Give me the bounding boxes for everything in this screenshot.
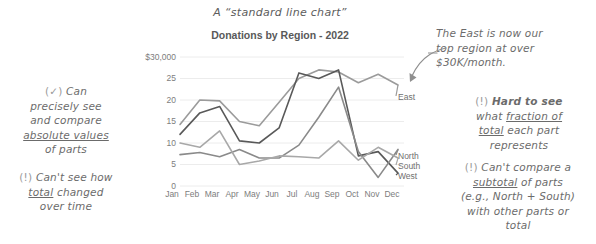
annotation-text: of parts bbox=[517, 176, 563, 188]
annotation-text-underlined: total bbox=[479, 124, 504, 136]
slide-canvas: A “standard line chart” Donations by Reg… bbox=[0, 0, 596, 244]
annotation-text-underlined: total bbox=[28, 186, 53, 198]
y-tick-label: 20 bbox=[130, 95, 176, 105]
annotation-right-con-1: (!) Hard to see what fraction of total e… bbox=[444, 94, 594, 152]
annotation-text: over time bbox=[40, 200, 92, 212]
annotation-east-callout: The East is now our top region at over $… bbox=[436, 26, 594, 70]
annotation-text-underlined: absolute values bbox=[23, 129, 109, 141]
annotation-right-con-2: (!) Can't compare a subtotal of parts (e… bbox=[440, 160, 596, 233]
annotation-text: changed bbox=[53, 186, 103, 198]
annotation-text-underlined: fraction of bbox=[506, 110, 562, 122]
y-tick-label: 25 bbox=[130, 73, 176, 83]
y-tick-label: 10 bbox=[130, 138, 176, 148]
annotation-text-underlined: subtotal bbox=[473, 176, 517, 188]
annotation-text: Can't see how bbox=[36, 171, 113, 183]
series-label-north: North bbox=[398, 151, 419, 161]
line-chart: $30,000 25 20 15 10 5 0 Jan Feb Mar Apr … bbox=[130, 46, 405, 211]
y-tick-label: $30,000 bbox=[130, 52, 176, 62]
annotation-text: top region at over bbox=[436, 42, 534, 54]
annotation-text: total bbox=[505, 219, 530, 231]
annotation-text: (e.g., North + South) bbox=[461, 190, 575, 202]
annotation-text: each part bbox=[504, 124, 560, 136]
chart-title: Donations by Region - 2022 bbox=[170, 29, 390, 41]
annotation-left-con: (!) Can't see how total changed over tim… bbox=[4, 170, 128, 214]
annotation-text: The East is now our bbox=[436, 27, 543, 39]
series-label-east: East bbox=[398, 92, 415, 102]
y-tick-label: 5 bbox=[130, 159, 176, 169]
annotation-text: Can't compare a bbox=[481, 161, 571, 173]
annotation-left-pro: (✓) Can precisely see and compare absolu… bbox=[4, 84, 128, 157]
annotation-text: and compare bbox=[30, 114, 102, 126]
annotation-text: precisely see bbox=[30, 100, 102, 112]
series-label-west: West bbox=[398, 171, 417, 181]
warning-icon: (!) bbox=[475, 95, 488, 107]
warning-icon: (!) bbox=[465, 161, 478, 173]
annotation-text: with other parts or bbox=[467, 205, 569, 217]
hand-title: A “standard line chart” bbox=[170, 6, 390, 19]
warning-icon: (!) bbox=[19, 171, 32, 183]
annotation-text-bold: Hard to see bbox=[492, 95, 563, 107]
annotation-text: represents bbox=[490, 139, 548, 151]
annotation-text: what bbox=[476, 110, 506, 122]
annotation-text: Can bbox=[66, 85, 87, 97]
y-tick-label: 15 bbox=[130, 116, 176, 126]
x-tick-label: Dec bbox=[380, 189, 404, 199]
series-label-south: South bbox=[398, 161, 420, 171]
annotation-text: $30K/month. bbox=[436, 56, 506, 68]
annotation-text: of parts bbox=[45, 143, 87, 155]
check-icon: (✓) bbox=[45, 85, 63, 97]
